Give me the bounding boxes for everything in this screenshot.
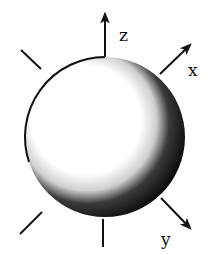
sphere xyxy=(25,57,185,217)
y-axis-arrow xyxy=(161,198,190,228)
x-axis-arrow xyxy=(160,45,190,74)
z-axis-label: z xyxy=(119,25,128,45)
tick-upper-left xyxy=(21,50,41,69)
y-axis-label: y xyxy=(160,229,171,249)
x-axis-label: x xyxy=(188,60,198,80)
tick-lower-left xyxy=(20,212,42,234)
sphere-axes-diagram: z x y xyxy=(0,0,213,255)
